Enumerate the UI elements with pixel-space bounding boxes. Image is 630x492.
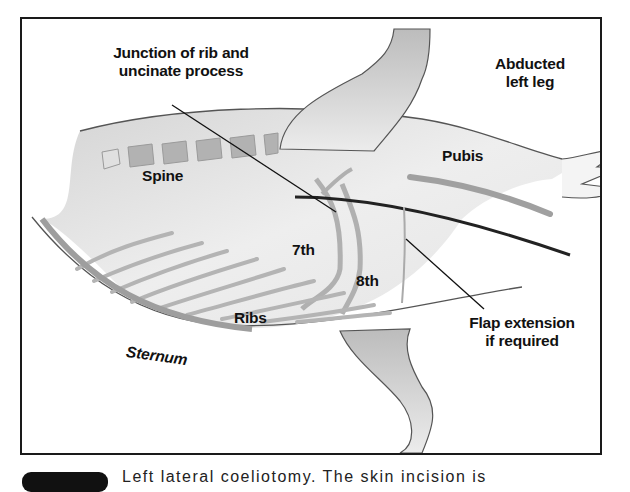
junction-label: Junction of rib and uncinate process (66, 44, 296, 80)
eighth-rib-label: 8th (356, 272, 379, 290)
flap-leader (406, 239, 484, 309)
abducted-label-line1: Abducted (480, 55, 580, 73)
junction-label-line1: Junction of rib and (66, 44, 296, 62)
pubis-label: Pubis (442, 147, 483, 165)
seventh-rib-label: 7th (292, 241, 315, 259)
tail-feathers (562, 149, 600, 198)
abducted-label-line2: left leg (480, 73, 580, 91)
right-leg (340, 329, 433, 453)
spine-label: Spine (142, 167, 183, 185)
flap-label-line2: if required (452, 332, 592, 350)
ribs-label: Ribs (234, 309, 267, 327)
figure-caption: Left lateral coeliotomy. The skin incisi… (122, 468, 487, 486)
flap-extension-label: Flap extension if required (452, 314, 592, 350)
figure-number-badge (22, 472, 108, 492)
flap-label-line1: Flap extension (452, 314, 592, 332)
junction-label-line2: uncinate process (66, 62, 296, 80)
abducted-leg-label: Abducted left leg (480, 55, 580, 91)
figure-frame: Junction of rib and uncinate process Abd… (20, 17, 602, 455)
